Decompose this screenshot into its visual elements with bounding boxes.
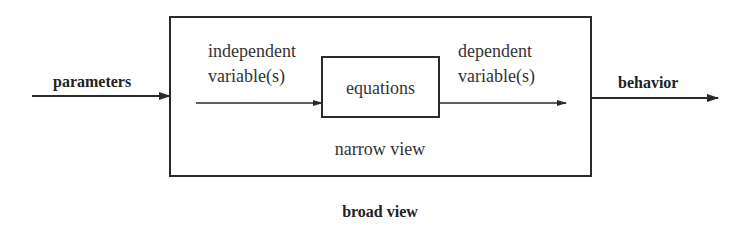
parameters-label: parameters — [53, 72, 131, 92]
equations-label: equations — [322, 76, 439, 100]
independent-variable-label-line2: variable(s) — [208, 64, 285, 88]
diagram-lines — [0, 0, 738, 234]
behavior-label: behavior — [618, 73, 678, 93]
broad-view-label: broad view — [300, 202, 460, 222]
narrow-view-label: narrow view — [310, 137, 450, 161]
dependent-variable-label-line2: variable(s) — [458, 64, 535, 88]
dependent-variable-label-line1: dependent — [458, 39, 532, 63]
independent-variable-label-line1: independent — [208, 39, 296, 63]
